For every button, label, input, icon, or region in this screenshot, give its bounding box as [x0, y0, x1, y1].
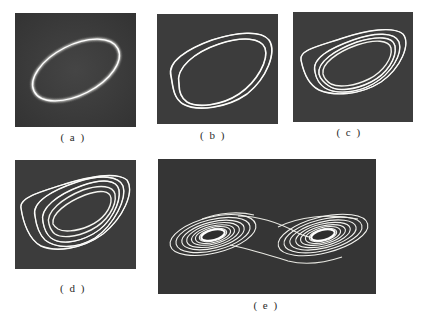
caption-c: ( c ): [336, 126, 361, 138]
caption-d: ( d ): [60, 282, 86, 294]
trace-period-1: [15, 13, 136, 127]
caption-b: ( b ): [200, 129, 226, 141]
panel-c-period-4: [293, 12, 413, 122]
caption-e: ( e ): [253, 299, 278, 311]
trace-period-2: [157, 14, 278, 124]
caption-a: ( a ): [60, 131, 85, 143]
trace-period-4: [293, 12, 413, 122]
panel-b-period-2: [157, 14, 278, 124]
trace-double-scroll-chaos: [158, 159, 376, 294]
panel-a-limit-cycle: [15, 13, 136, 127]
trace-single-scroll-chaos: [15, 160, 136, 269]
panel-d-single-scroll: [15, 160, 136, 269]
panel-e-double-scroll: [158, 159, 376, 294]
